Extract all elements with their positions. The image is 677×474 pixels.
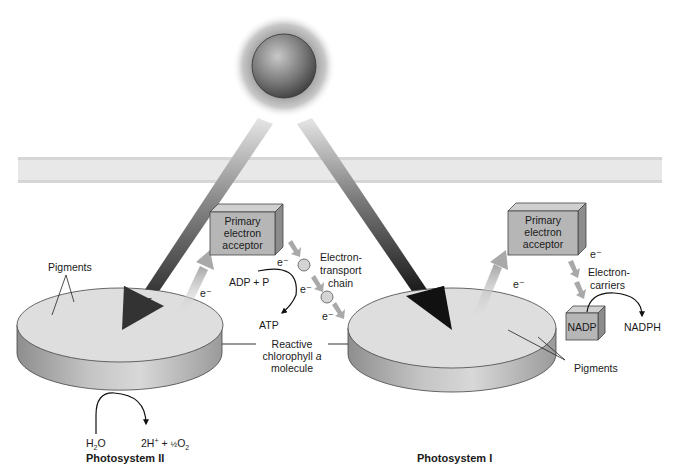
etc-electron-label-1: e⁻ [277, 256, 289, 268]
photosystem-ii-title: Photosystem II [86, 452, 164, 464]
chlorophyll-a-line: chlorophyll a [256, 350, 328, 362]
water-splitting-arrow [96, 393, 146, 434]
etc-label: Electron- transport chain [320, 251, 362, 290]
etc-electron-label-2: e⁻ [300, 283, 312, 295]
ps1-acceptor-label: Primary electron acceptor [508, 214, 578, 250]
ps2-pigments-label: Pigments [48, 261, 92, 273]
photosystem-i-disk [348, 288, 556, 392]
reactive-chlorophyll-label: Reactive chlorophyll a molecule [256, 338, 328, 374]
ps1-pigments-label: Pigments [574, 362, 618, 374]
ps2-acceptor-label: Primary electron acceptor [210, 215, 275, 251]
ps1-acceptor-electron-label: e⁻ [590, 248, 602, 260]
adp-p-label: ADP + P [229, 276, 269, 288]
ps2-electron-label: e⁻ [200, 287, 212, 299]
sun-icon [232, 14, 336, 118]
electron-carriers-label: Electron- carriers [588, 266, 630, 292]
water-label: H2O [86, 437, 106, 449]
etc-electron-label-3: e⁻ [322, 310, 334, 322]
atp-label: ATP [259, 319, 279, 331]
nadph-label: NADPH [624, 321, 661, 333]
photosystem-i-title: Photosystem I [417, 452, 492, 464]
photosystem-ii-disk [17, 288, 223, 390]
ps1-electron-label: e⁻ [513, 278, 525, 290]
nadp-label: NADP [566, 321, 598, 333]
water-products-label: 2H+ + ½O2 [141, 437, 189, 451]
